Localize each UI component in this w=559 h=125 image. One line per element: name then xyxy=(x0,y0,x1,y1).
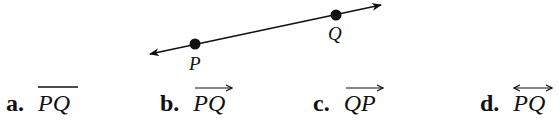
line-double-arrow-icon xyxy=(513,84,553,94)
option-d[interactable]: d. PQ xyxy=(480,90,545,117)
option-d-letter: d. xyxy=(480,90,499,117)
option-d-symbol: PQ xyxy=(513,90,545,117)
label-q: Q xyxy=(328,23,342,45)
point-q xyxy=(331,10,342,21)
label-p: P xyxy=(189,53,201,75)
option-c[interactable]: c. QP xyxy=(313,90,376,117)
ray-arrow-icon xyxy=(193,84,233,94)
option-a[interactable]: a. PQ xyxy=(6,90,70,117)
point-p xyxy=(190,39,201,50)
ray-arrow-icon xyxy=(344,84,384,94)
option-c-symbol: QP xyxy=(344,90,376,117)
option-b-letter: b. xyxy=(160,90,179,117)
option-a-letter: a. xyxy=(6,90,24,117)
line-pq xyxy=(150,5,381,54)
option-b[interactable]: b. PQ xyxy=(160,90,225,117)
line-diagram xyxy=(0,0,559,80)
option-c-letter: c. xyxy=(313,90,330,117)
option-a-symbol: PQ xyxy=(38,90,70,117)
segment-bar-icon xyxy=(38,84,78,94)
option-b-symbol: PQ xyxy=(193,90,225,117)
